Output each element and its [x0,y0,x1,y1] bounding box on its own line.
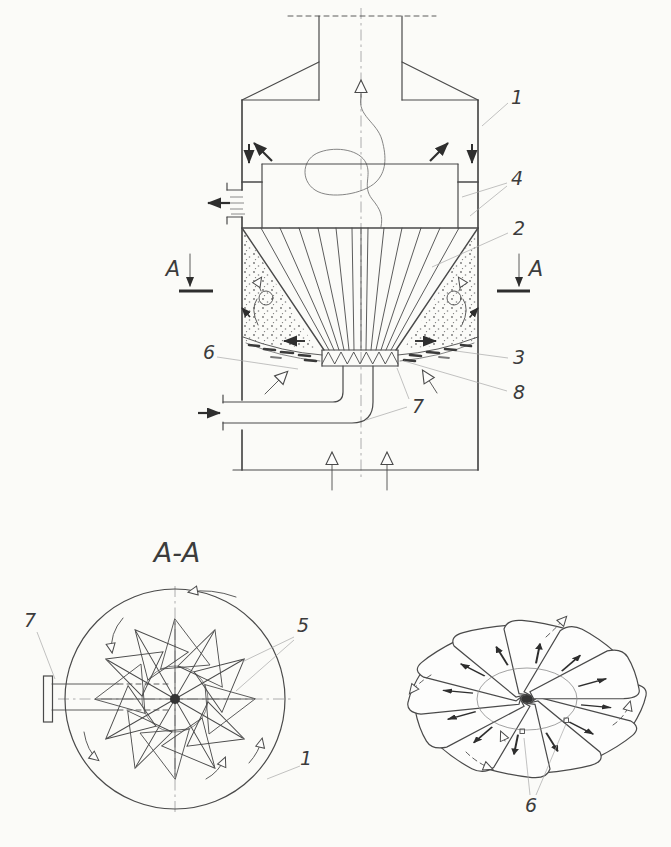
updraft-arrow-icon [265,372,287,394]
flow-up-left-arrow-icon [254,143,272,161]
part-label-2: 2 [513,217,525,239]
section-view-a-a: A-A [24,537,312,812]
part-labels-section: 7 5 1 [24,609,312,779]
flow-up-right-arrow-icon [430,143,448,161]
impeller-blades [88,612,262,786]
engineering-drawing: A A 1 4 2 3 8 6 7 A-A [0,0,671,847]
part-label-3: 3 [513,346,525,368]
part-label-7: 7 [412,395,424,417]
rotation-arrow-icon [84,732,98,760]
updraft-arrow-icon [423,371,437,393]
rosette-center [521,695,533,703]
part-label-4: 4 [511,167,523,189]
section-cut-marker-left: A [164,254,213,291]
part-label-6-rosette: 6 [525,794,537,816]
part-label-8: 8 [513,381,525,403]
gas-outlet-stub [208,183,245,224]
stipple-left [244,231,316,349]
section-cut-marker-right: A [497,254,543,291]
separator-box [242,164,478,228]
rosette-petals [398,614,655,784]
part-label-6: 6 [203,341,215,363]
chamber-flow-arrows [249,143,472,163]
part-label-1-section: 1 [300,747,312,769]
gas-inlet-arrows [265,371,437,490]
stipple-right [404,231,476,349]
section-letter-right: A [527,257,543,281]
rotation-arrow-icon [111,618,123,652]
rotation-arrow-icon [249,739,262,763]
feed-pipe [198,366,373,430]
blade-rosette-perspective: 6 [398,614,655,816]
part-label-7-section: 7 [24,609,36,631]
shaft-center [170,694,180,704]
drawing-page: A A 1 4 2 3 8 6 7 A-A [0,0,671,847]
feed-pipe-flange [44,676,53,722]
top-gas-outlet-pipe [288,16,436,100]
front-section-view: A A 1 4 2 3 8 6 7 [164,8,543,490]
swirl-flow-path [305,97,385,227]
section-view-title: A-A [152,537,201,568]
part-label-5-section: 5 [297,614,309,636]
distributor-teeth [322,350,398,366]
particle-zones [244,231,476,349]
part-label-1: 1 [511,86,523,108]
section-letter-left: A [164,257,180,281]
hood [242,62,478,100]
